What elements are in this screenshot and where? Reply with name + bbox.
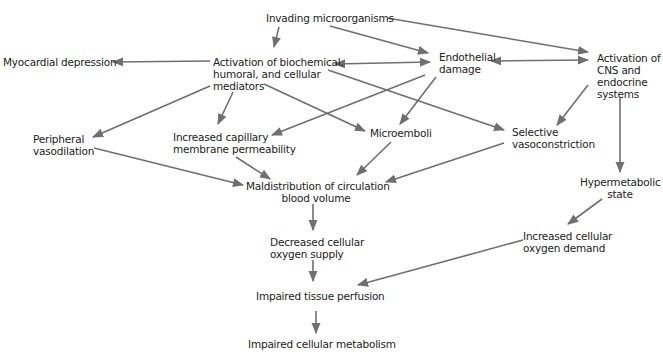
node-label: Myocardial depression <box>3 56 116 68</box>
node-label: CNS and <box>597 64 660 76</box>
node-microemboli: Microemboli <box>370 127 432 139</box>
arrow-mediators-to-capillary <box>218 92 233 124</box>
node-decreased-oxygen-supply: Decreased cellular oxygen supply <box>270 236 364 260</box>
node-label: Selective <box>512 126 595 138</box>
node-label: Maldistribution of circulation <box>246 180 386 192</box>
node-label: Decreased cellular <box>270 236 364 248</box>
arrow-endothelial-to-microemboli <box>400 77 436 124</box>
node-label: damage <box>439 63 496 75</box>
node-label: vasoconstriction <box>512 138 595 150</box>
arrow-invading-to-cns <box>387 18 588 52</box>
node-label: Hypermetabolic <box>580 176 660 188</box>
node-label: oxygen supply <box>270 248 364 260</box>
node-invading-microorganisms: Invading microorganisms <box>266 12 394 24</box>
node-label: Microemboli <box>370 127 432 139</box>
arrow-cns-to-selective <box>557 85 588 125</box>
node-label: vasodilation <box>33 145 94 157</box>
node-label: Increased capillary <box>173 131 296 143</box>
node-label: Impaired tissue perfusion <box>256 290 385 302</box>
node-label: systems <box>597 88 660 100</box>
node-label: Peripheral <box>33 133 94 145</box>
arrow-microemboli-to-maldistribution <box>357 142 391 175</box>
arrow-invading-to-endothelial <box>330 26 428 53</box>
septic-shock-flow-diagram: Invading microorganisms Activation of bi… <box>0 0 663 363</box>
node-label: state <box>580 188 660 200</box>
node-peripheral-vasodilation: Peripheral vasodilation <box>33 133 94 157</box>
node-impaired-cellular-metabolism: Impaired cellular metabolism <box>248 338 396 350</box>
node-impaired-tissue-perfusion: Impaired tissue perfusion <box>256 290 385 302</box>
node-label: Endothelial <box>439 51 496 63</box>
node-increased-oxygen-demand: Increased cellular oxygen demand <box>523 230 612 254</box>
node-maldistribution: Maldistribution of circulation blood vol… <box>246 180 386 204</box>
node-label: Activation of <box>597 52 660 64</box>
node-selective-vasoconstriction: Selective vasoconstriction <box>512 126 595 150</box>
node-myocardial-depression: Myocardial depression <box>3 56 116 68</box>
arrow-mediators-to-myocardial <box>113 61 210 62</box>
node-label: humoral, and cellular <box>213 68 344 80</box>
node-label: Activation of biochemical, <box>213 56 344 68</box>
node-label: Increased cellular <box>523 230 612 242</box>
node-endothelial-damage: Endothelial damage <box>439 51 496 75</box>
node-label: Impaired cellular metabolism <box>248 338 396 350</box>
arrow-selective-to-maldistribution <box>386 143 504 182</box>
arrow-invading-to-mediators <box>274 27 279 47</box>
arrow-endothelial-cns <box>491 60 588 61</box>
arrow-mediators-to-peripheral <box>93 86 210 137</box>
arrow-capillary-to-maldistribution <box>236 157 270 179</box>
node-label: membrane permeability <box>173 143 296 155</box>
node-label: mediators <box>213 80 344 92</box>
node-label: endocrine <box>597 76 660 88</box>
arrow-mediators-endothelial <box>335 62 430 64</box>
node-label: blood volume <box>246 192 386 204</box>
node-hypermetabolic-state: Hypermetabolic state <box>580 176 660 200</box>
node-mediators: Activation of biochemical, humoral, and … <box>213 56 344 92</box>
arrow-hypermetabolic-to-increased-demand <box>568 199 602 224</box>
arrow-increased-demand-to-impaired-perfusion <box>358 240 523 285</box>
node-cns-endocrine: Activation of CNS and endocrine systems <box>597 52 660 100</box>
node-capillary-permeability: Increased capillary membrane permeabilit… <box>173 131 296 155</box>
node-label: Invading microorganisms <box>266 12 394 24</box>
node-label: oxygen demand <box>523 242 612 254</box>
